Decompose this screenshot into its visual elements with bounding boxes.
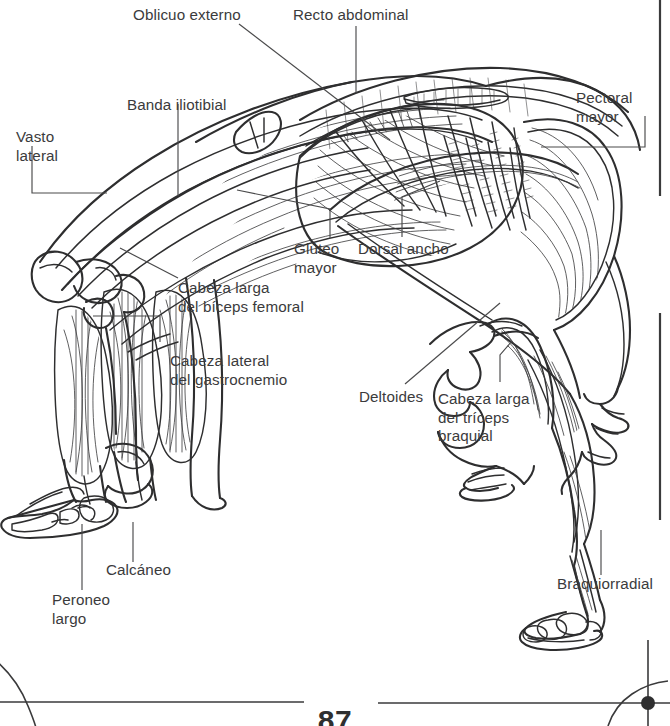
label-peroneo-largo: Peroneolargo bbox=[52, 591, 110, 628]
label-pectoral-mayor-line2: mayor bbox=[576, 108, 619, 125]
label-vasto-lateral: Vastolateral bbox=[16, 128, 58, 165]
label-vasto-lateral-line2: lateral bbox=[16, 147, 58, 164]
label-oblicuo-externo: Oblicuo externo bbox=[133, 6, 241, 25]
label-cabeza-larga-biceps-femoral: Cabeza largadel bíceps femoral bbox=[178, 279, 304, 316]
label-dorsal-ancho: Dorsal ancho bbox=[358, 240, 449, 259]
label-pectoral-mayor: Pectoralmayor bbox=[576, 89, 633, 126]
label-cabeza-lateral-gastrocnemio: Cabeza lateraldel gastrocnemio bbox=[170, 352, 287, 389]
label-braquiorradial: Braquiorradial bbox=[557, 575, 653, 594]
page-number: 87 bbox=[0, 704, 670, 726]
label-vasto-lateral-line1: Vasto bbox=[16, 128, 54, 145]
label-cabeza-larga-triceps-braquial: Cabeza largadel trícepsbraquial bbox=[438, 390, 530, 446]
label-calcaneo: Calcáneo bbox=[106, 561, 171, 580]
label-gluteo-mayor: Glúteomayor bbox=[294, 240, 339, 277]
label-cabeza-larga-triceps-braquial-line1: Cabeza larga bbox=[438, 390, 530, 407]
label-cabeza-lateral-gastrocnemio-line1: Cabeza lateral bbox=[170, 352, 269, 369]
label-peroneo-largo-line1: Peroneo bbox=[52, 591, 110, 608]
label-cabeza-larga-triceps-braquial-line3: braquial bbox=[438, 427, 493, 444]
label-cabeza-larga-biceps-femoral-line1: Cabeza larga bbox=[178, 279, 270, 296]
label-cabeza-lateral-gastrocnemio-line2: del gastrocnemio bbox=[170, 371, 287, 388]
label-cabeza-larga-biceps-femoral-line2: del bíceps femoral bbox=[178, 298, 304, 315]
label-deltoides: Deltoides bbox=[359, 388, 423, 407]
book-page: .o{fill:none;stroke:#2e2e2f;stroke-width… bbox=[0, 0, 670, 726]
label-cabeza-larga-triceps-braquial-line2: del tríceps bbox=[438, 409, 509, 426]
label-gluteo-mayor-line2: mayor bbox=[294, 259, 337, 276]
label-recto-abdominal: Recto abdominal bbox=[293, 6, 408, 25]
label-pectoral-mayor-line1: Pectoral bbox=[576, 89, 633, 106]
label-banda-iliotibial: Banda iliotibial bbox=[127, 96, 227, 115]
label-gluteo-mayor-line1: Glúteo bbox=[294, 240, 339, 257]
label-peroneo-largo-line2: largo bbox=[52, 610, 86, 627]
